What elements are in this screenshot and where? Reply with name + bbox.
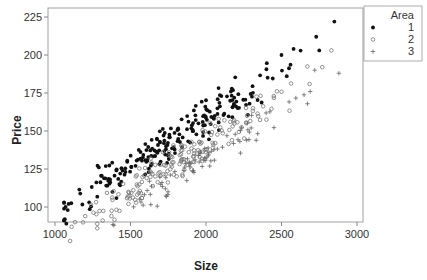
point-area-1 <box>265 67 269 71</box>
point-area-1 <box>299 49 303 53</box>
point-area-1 <box>162 141 166 145</box>
point-area-1 <box>233 75 237 79</box>
point-area-1 <box>129 154 133 158</box>
point-area-1 <box>176 127 180 131</box>
y-tick-label: 225 <box>24 11 42 23</box>
point-area-1 <box>208 110 212 114</box>
point-area-1 <box>66 208 70 212</box>
point-area-1 <box>67 202 71 206</box>
point-area-1 <box>169 127 173 131</box>
x-tick-label: 3000 <box>345 228 369 240</box>
point-area-1 <box>204 98 208 102</box>
point-area-1 <box>150 138 154 142</box>
point-area-1 <box>135 159 139 163</box>
point-area-1 <box>110 161 114 165</box>
point-area-1 <box>139 157 143 161</box>
point-area-1 <box>77 188 81 192</box>
point-area-1 <box>218 104 222 108</box>
x-tick-label: 1500 <box>118 228 142 240</box>
point-area-1 <box>163 131 167 135</box>
point-area-1 <box>134 164 138 168</box>
point-area-1 <box>217 86 221 90</box>
point-area-1 <box>143 142 147 146</box>
point-area-1 <box>192 109 196 113</box>
point-area-1 <box>217 101 221 105</box>
point-area-1 <box>118 172 122 176</box>
point-area-1 <box>371 26 375 30</box>
point-area-1 <box>222 113 226 117</box>
point-area-1 <box>90 185 94 189</box>
point-area-1 <box>113 174 117 178</box>
point-area-1 <box>218 93 222 97</box>
point-area-1 <box>155 137 159 141</box>
y-tick-label: 100 <box>24 201 42 213</box>
point-area-1 <box>201 134 205 138</box>
point-area-1 <box>104 184 108 188</box>
point-area-1 <box>227 114 231 118</box>
point-area-1 <box>207 137 211 141</box>
point-area-1 <box>314 35 318 39</box>
point-area-1 <box>194 118 198 122</box>
point-area-1 <box>195 132 199 136</box>
point-area-1 <box>285 74 289 78</box>
point-area-1 <box>180 117 184 121</box>
x-tick-label: 2500 <box>269 228 293 240</box>
point-area-1 <box>216 97 220 101</box>
point-area-1 <box>99 180 103 184</box>
x-tick-label: 1000 <box>43 228 67 240</box>
y-tick-label: 200 <box>24 49 42 61</box>
point-area-1 <box>201 120 205 124</box>
point-area-1 <box>265 61 269 65</box>
legend-entry-label: 1 <box>408 21 414 33</box>
point-area-1 <box>187 120 191 124</box>
point-area-1 <box>266 76 270 80</box>
point-area-1 <box>212 117 216 121</box>
point-area-1 <box>123 166 127 170</box>
point-area-1 <box>116 177 120 181</box>
legend: Area 123 <box>364 6 422 61</box>
point-area-1 <box>161 127 165 131</box>
point-area-1 <box>125 159 129 163</box>
point-area-1 <box>225 94 229 98</box>
point-area-1 <box>258 73 262 77</box>
point-area-1 <box>232 103 236 107</box>
point-area-1 <box>115 196 119 200</box>
point-area-1 <box>194 113 198 117</box>
point-area-1 <box>243 98 247 102</box>
point-area-1 <box>64 222 68 226</box>
point-area-1 <box>251 91 255 95</box>
point-area-1 <box>141 153 145 157</box>
point-area-1 <box>123 173 127 177</box>
point-area-1 <box>104 164 108 168</box>
point-area-1 <box>289 63 293 67</box>
point-area-1 <box>120 166 124 170</box>
point-area-1 <box>62 201 66 205</box>
point-area-1 <box>167 135 171 139</box>
point-area-1 <box>99 174 103 178</box>
y-axis-title: Price <box>10 115 24 145</box>
point-area-1 <box>178 132 182 136</box>
point-area-1 <box>292 47 296 51</box>
point-area-1 <box>237 106 241 110</box>
point-area-1 <box>271 77 275 81</box>
point-area-1 <box>95 195 99 199</box>
point-area-1 <box>96 164 100 168</box>
point-area-1 <box>163 153 167 157</box>
point-area-1 <box>203 123 207 127</box>
point-area-1 <box>280 69 284 73</box>
point-area-1 <box>128 170 132 174</box>
point-area-1 <box>166 141 170 145</box>
point-area-1 <box>181 135 185 139</box>
point-area-1 <box>146 145 150 149</box>
point-area-1 <box>191 121 195 125</box>
y-tick-label: 125 <box>24 163 42 175</box>
point-area-1 <box>94 181 98 185</box>
point-area-1 <box>205 118 209 122</box>
point-area-1 <box>176 137 180 141</box>
legend-title: Area <box>391 9 415 21</box>
scatter-chart: 10001500200025003000100125150175200225 S… <box>0 0 427 280</box>
point-area-1 <box>230 87 234 91</box>
point-area-1 <box>185 127 189 131</box>
point-area-1 <box>154 150 158 154</box>
point-area-1 <box>287 66 291 70</box>
